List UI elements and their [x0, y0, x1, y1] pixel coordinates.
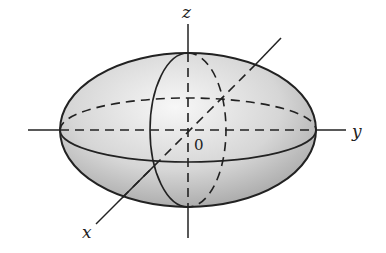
x-axis-bottom [96, 202, 118, 224]
x-axis-label: x [82, 222, 92, 242]
z-axis-label: z [181, 2, 192, 22]
x-axis-top [256, 38, 281, 64]
y-axis-label: y [351, 121, 362, 141]
ellipsoid-diagram: z y x 0 [0, 0, 386, 253]
origin-label: 0 [194, 136, 204, 154]
